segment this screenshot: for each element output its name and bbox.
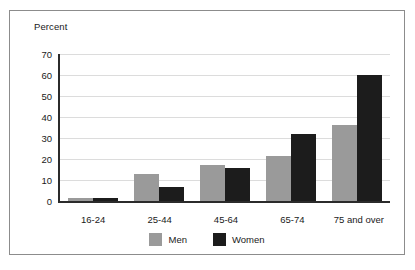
y-tick-label: 60 (41, 70, 52, 81)
x-axis-tick-labels: 16-2425-4445-6465-7475 and over (60, 214, 392, 225)
y-tick-label: 50 (41, 91, 52, 102)
legend-label: Women (232, 234, 265, 245)
legend-item-men: Men (149, 233, 186, 246)
x-tick-label: 45-64 (193, 214, 259, 225)
y-axis-title: Percent (34, 21, 67, 32)
y-tick-label: 10 (41, 175, 52, 186)
y-tick-label: 40 (41, 112, 52, 123)
axis-baseline (58, 201, 390, 203)
bar-men (200, 165, 225, 201)
bar-men (332, 125, 357, 201)
plot-area: 010203040506070 (58, 44, 390, 201)
x-tick-label: 65-74 (259, 214, 325, 225)
x-tick-label: 16-24 (60, 214, 126, 225)
bar-men (68, 198, 93, 201)
y-tick-label: 70 (41, 49, 52, 60)
bar-group (258, 44, 324, 201)
x-tick-label: 75 and over (326, 214, 392, 225)
bar-group (324, 44, 390, 201)
bar-group (60, 44, 126, 201)
bar-women (159, 187, 184, 201)
bar-groups (60, 44, 390, 201)
legend-swatch-icon (213, 233, 226, 246)
bar-women (291, 134, 316, 201)
y-tick-label: 20 (41, 154, 52, 165)
y-axis-tick-labels: 010203040506070 (14, 44, 52, 201)
chart-frame: Percent 010203040506070 16-2425-4445-646… (9, 10, 405, 255)
bar-men (134, 174, 159, 201)
bar-group (192, 44, 258, 201)
chart-legend: MenWomen (10, 233, 404, 246)
bar-women (225, 168, 250, 201)
x-tick-label: 25-44 (126, 214, 192, 225)
legend-label: Men (168, 234, 186, 245)
bar-men (266, 156, 291, 201)
bar-women (357, 75, 382, 201)
y-tick-label: 0 (47, 196, 52, 207)
legend-swatch-icon (149, 233, 162, 246)
y-tick-label: 30 (41, 133, 52, 144)
bar-women (93, 198, 118, 201)
legend-item-women: Women (213, 233, 265, 246)
bar-group (126, 44, 192, 201)
